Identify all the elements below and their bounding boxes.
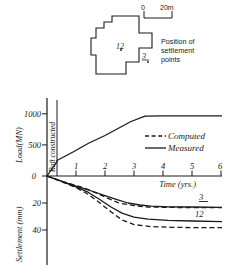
load-y-ticklabel-500: 500 [28, 140, 42, 150]
settlement-point-12: 12 [116, 42, 124, 51]
plan-legend: Position of settlement points [161, 37, 195, 64]
load-x-ticklabels: 1 2 3 4 5 6 [74, 161, 223, 171]
raft-constructed-label: Raft constructed [48, 122, 57, 173]
legend-measured-label: Measured [167, 143, 204, 153]
settlement-point-12-label: 12 [116, 42, 124, 51]
plan-view: 12 3 0 20m Position of settlement points [91, 4, 195, 74]
scale-bar-left-label: 0 [141, 4, 145, 11]
load-y-axis-title: Load(MN) [14, 127, 24, 164]
scale-bar: 0 20m [141, 4, 174, 18]
settlement-y-ticks [42, 203, 47, 230]
time-axis-title: Time (yrs.) [159, 179, 196, 189]
load-x-ticklabel-1: 1 [74, 161, 78, 171]
settlement-curve-label-3: 3 [198, 192, 208, 202]
plan-legend-line1: Position of [161, 37, 195, 46]
plan-legend-line3: points [161, 55, 181, 64]
load-y-ticklabel-1000: 1000 [24, 109, 42, 119]
load-y-ticklabels: 0 500 1000 [24, 109, 42, 181]
curve-label-3: 3 [198, 192, 203, 202]
figure-root: 12 3 0 20m Position of settlement points [0, 0, 227, 276]
load-y-ticklabel-0: 0 [32, 171, 37, 181]
load-x-ticklabel-5: 5 [190, 161, 194, 171]
load-x-ticks [76, 171, 221, 177]
settlement-point-3-marker [147, 61, 149, 63]
load-chart: 0 500 1000 Load(MN) 1 2 3 4 5 6 [14, 98, 223, 189]
chart-legend: Computed Measured [145, 131, 205, 153]
settlement-point-3-label: 3 [141, 52, 146, 61]
curve-label-12: 12 [195, 209, 204, 219]
settlement-point-3: 3 [141, 52, 149, 63]
legend-computed-label: Computed [168, 131, 205, 141]
load-y-ticks [42, 114, 47, 176]
scale-bar-right-label: 20m [160, 4, 174, 11]
load-x-ticklabel-6: 6 [218, 161, 223, 171]
load-x-ticklabel-2: 2 [103, 161, 108, 171]
settlement-chart: 20 40 Settlement (mm) 3 12 [14, 176, 222, 265]
figure-svg: 12 3 0 20m Position of settlement points [0, 0, 227, 276]
settlement-y-axis-title: Settlement (mm) [14, 206, 24, 262]
load-x-ticklabel-4: 4 [161, 161, 166, 171]
plan-legend-line2: settlement [161, 46, 194, 55]
settlement-y-ticklabels: 20 40 [33, 198, 42, 235]
load-x-ticklabel-3: 3 [131, 161, 136, 171]
settlement-y-ticklabel-40: 40 [33, 225, 42, 235]
settlement-y-ticklabel-20: 20 [33, 198, 42, 208]
